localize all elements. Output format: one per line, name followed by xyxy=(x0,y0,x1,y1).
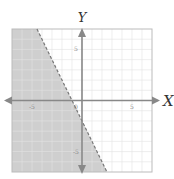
x-tick-label: -5 xyxy=(29,103,35,110)
y-tick-label: 5 xyxy=(74,45,78,52)
x-axis-label: X xyxy=(162,92,174,110)
x-tick-label: 5 xyxy=(130,103,134,110)
y-axis-label: Y xyxy=(78,10,88,25)
inequality-graph: X Y 0 -555-5 xyxy=(0,0,174,179)
origin-label: 0 xyxy=(74,103,78,110)
y-tick-label: -5 xyxy=(73,148,79,155)
x-axis-left-arrow-icon xyxy=(4,97,12,105)
x-axis-right-arrow-icon xyxy=(152,97,160,105)
